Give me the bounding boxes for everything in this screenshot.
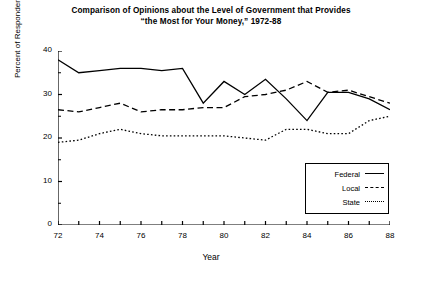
chart-title-line-1: Comparison of Opinions about the Level o… <box>0 5 422 16</box>
x-tick-label: 86 <box>337 231 361 240</box>
chart-figure: Comparison of Opinions about the Level o… <box>0 0 422 282</box>
legend-swatch-solid <box>365 173 384 175</box>
y-tick-label: 40 <box>22 45 52 54</box>
x-tick-label: 88 <box>378 231 402 240</box>
y-tick-label: 10 <box>22 176 52 185</box>
x-tick-label: 84 <box>295 231 319 240</box>
x-tick-label: 80 <box>212 231 236 240</box>
x-tick-label: 74 <box>88 231 112 240</box>
series-line-state <box>58 116 390 142</box>
legend-item-local: Local <box>306 181 388 195</box>
data-series <box>58 60 390 143</box>
legend-label: State <box>342 198 360 207</box>
chart-title: Comparison of Opinions about the Level o… <box>0 5 422 27</box>
y-axis-title: Percent of Respondents <box>13 0 22 78</box>
chart-title-line-2: “the Most for Your Money,” 1972-88 <box>0 16 422 27</box>
legend-item-state: State <box>306 195 388 209</box>
x-tick-label: 72 <box>46 231 70 240</box>
series-line-local <box>58 81 390 111</box>
x-axis-title: Year <box>0 252 422 262</box>
legend-item-federal: Federal <box>306 167 388 181</box>
legend-label: Local <box>342 184 360 193</box>
x-tick-label: 76 <box>129 231 153 240</box>
x-tick-label: 78 <box>171 231 195 240</box>
legend-swatch-dashed <box>365 187 384 189</box>
chart-legend: FederalLocalState <box>305 163 389 214</box>
legend-label: Federal <box>335 170 360 179</box>
y-tick-label: 30 <box>22 89 52 98</box>
series-line-federal <box>58 60 390 121</box>
y-tick-label: 20 <box>22 132 52 141</box>
x-tick-label: 82 <box>254 231 278 240</box>
legend-swatch-dotted <box>365 201 384 203</box>
y-tick-label: 0 <box>22 219 52 228</box>
